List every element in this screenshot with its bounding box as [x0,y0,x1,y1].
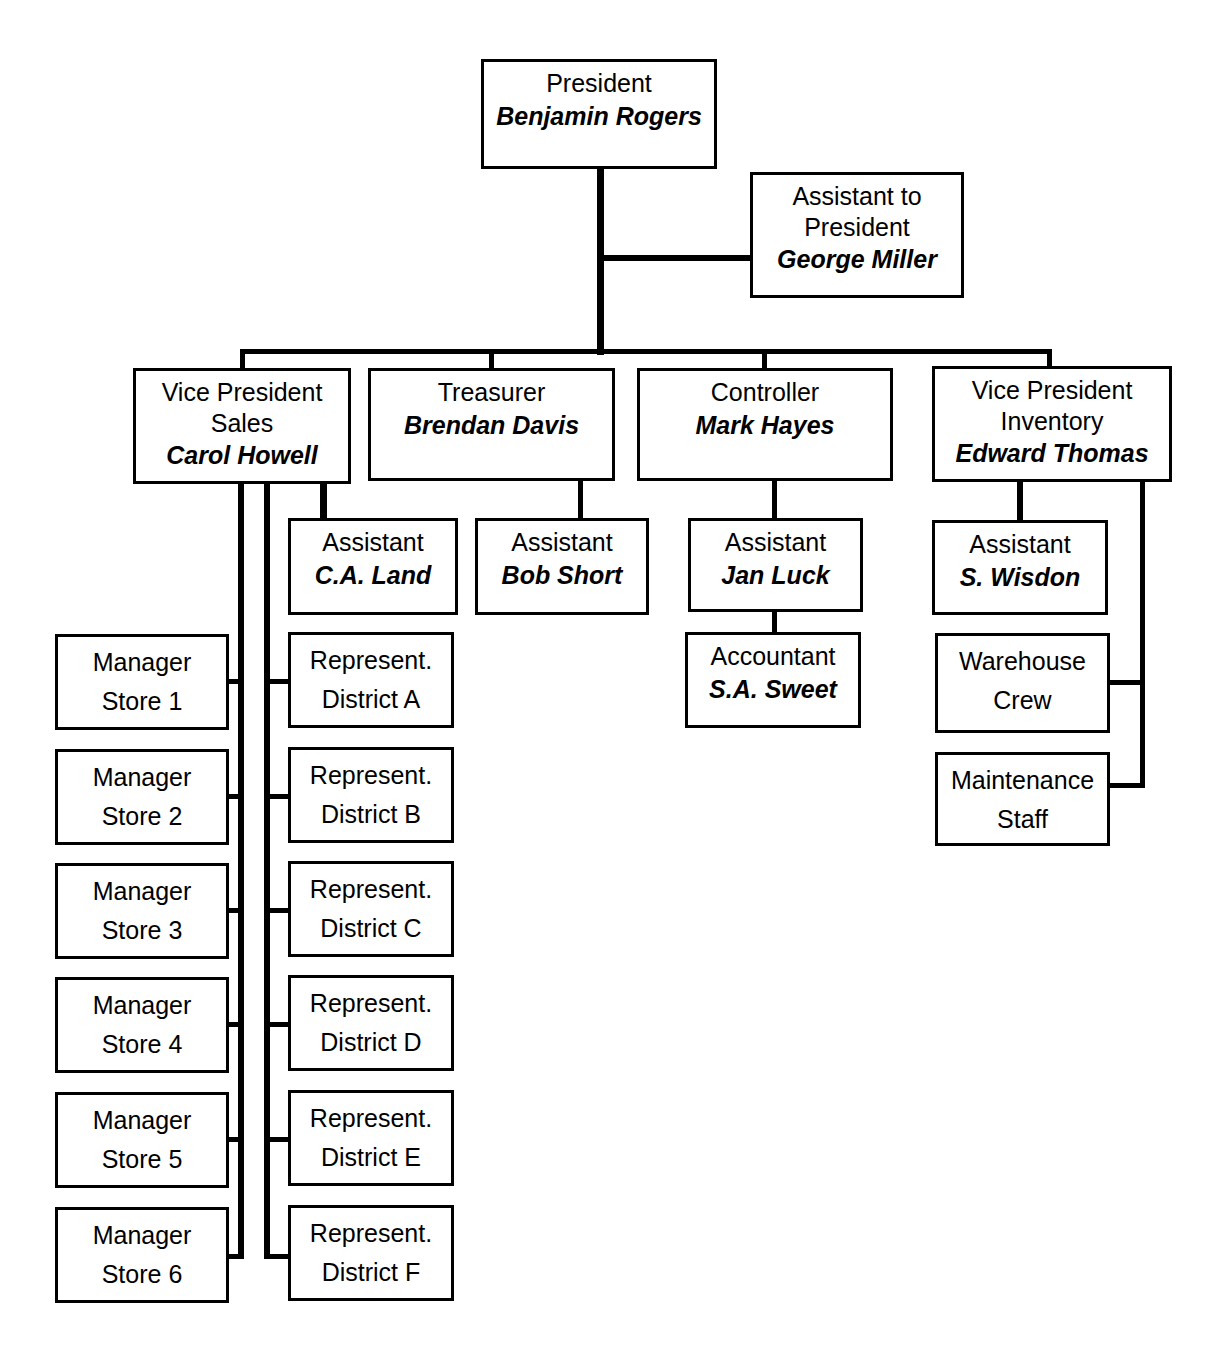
connector-drop-controller [762,349,767,370]
connector-managers-spine [238,483,244,1259]
node-represent-district-e[interactable]: Represent. District E [288,1090,454,1186]
connector-stub-district-d [264,1022,290,1027]
node-assistant-sales-person: C.A. Land [315,560,432,591]
node-manager-store-1[interactable]: Manager Store 1 [55,634,229,730]
connector-stub-district-a [264,679,290,684]
node-represent-district-a[interactable]: Represent. District A [288,632,454,728]
node-represent-district-a-title: Represent. District A [310,641,432,719]
connector-stub-warehouse [1108,680,1145,685]
node-manager-store-4-title: Manager Store 4 [93,986,192,1064]
node-vp-inventory[interactable]: Vice President Inventory Edward Thomas [932,366,1172,482]
connector-drop-vp-sales [240,349,245,370]
connector-stub-district-e [264,1137,290,1142]
node-manager-store-6-title: Manager Store 6 [93,1216,192,1294]
node-assistant-inventory-person: S. Wisdon [960,562,1081,593]
node-manager-store-6[interactable]: Manager Store 6 [55,1207,229,1303]
node-maintenance-staff[interactable]: Maintenance Staff [935,752,1110,846]
node-assistant-treasurer-person: Bob Short [502,560,623,591]
node-assistant-controller-title: Assistant [725,527,826,558]
connector-stub-maintenance [1108,783,1145,788]
node-accountant[interactable]: Accountant S.A. Sweet [685,632,861,728]
node-manager-store-5-title: Manager Store 5 [93,1101,192,1179]
node-represent-district-c-title: Represent. District C [310,870,432,948]
node-vp-sales-title: Vice President Sales [162,377,323,438]
node-assistant-sales[interactable]: Assistant C.A. Land [288,518,458,615]
node-assistant-controller-person: Jan Luck [721,560,829,591]
node-manager-store-2[interactable]: Manager Store 2 [55,749,229,845]
node-assistant-sales-title: Assistant [322,527,423,558]
node-manager-store-4[interactable]: Manager Store 4 [55,977,229,1073]
node-warehouse-crew[interactable]: Warehouse Crew [935,633,1110,733]
node-controller-person: Mark Hayes [696,410,835,441]
connector-stub-district-f [264,1254,290,1259]
node-vp-inventory-person: Edward Thomas [955,438,1148,469]
connector-president-trunk [597,168,604,355]
node-vp-inventory-title: Vice President Inventory [972,375,1133,436]
node-represent-district-c[interactable]: Represent. District C [288,861,454,957]
connector-president-to-assistant [597,255,753,261]
node-president-person: Benjamin Rogers [496,101,702,132]
node-assistant-treasurer-title: Assistant [511,527,612,558]
node-assistant-inventory-title: Assistant [969,529,1070,560]
node-represent-district-b-title: Represent. District B [310,756,432,834]
connector-drop-treasurer [489,349,494,370]
node-assistant-treasurer[interactable]: Assistant Bob Short [475,518,649,615]
node-controller-title: Controller [711,377,819,408]
node-represent-district-d[interactable]: Represent. District D [288,975,454,1071]
node-vp-sales[interactable]: Vice President Sales Carol Howell [133,368,351,484]
node-manager-store-1-title: Manager Store 1 [93,643,192,721]
connector-inventory-spine [1140,481,1145,788]
connector-level2-bus [240,349,1052,354]
node-represent-district-d-title: Represent. District D [310,984,432,1062]
node-manager-store-3[interactable]: Manager Store 3 [55,863,229,959]
node-president[interactable]: President Benjamin Rogers [481,59,717,169]
node-treasurer-title: Treasurer [438,377,545,408]
node-treasurer[interactable]: Treasurer Brendan Davis [368,368,615,481]
node-warehouse-crew-title: Warehouse Crew [959,642,1086,720]
node-manager-store-5[interactable]: Manager Store 5 [55,1092,229,1188]
connector-stub-district-c [264,908,290,913]
connector-treasurer-to-assistant [578,480,583,519]
node-assistant-to-president[interactable]: Assistant to President George Miller [750,172,964,298]
connector-stub-district-b [264,794,290,799]
node-treasurer-person: Brendan Davis [404,410,579,441]
node-president-title: President [546,68,652,99]
node-accountant-title: Accountant [710,641,835,672]
node-represent-district-e-title: Represent. District E [310,1099,432,1177]
connector-vpsales-to-assistant [320,483,327,519]
node-vp-sales-person: Carol Howell [166,440,317,471]
node-controller[interactable]: Controller Mark Hayes [637,368,893,481]
connector-representatives-spine [264,483,270,1259]
node-represent-district-f-title: Represent. District F [310,1214,432,1292]
node-represent-district-f[interactable]: Represent. District F [288,1205,454,1301]
connector-vpinventory-to-assistant [1017,481,1023,521]
node-assistant-inventory[interactable]: Assistant S. Wisdon [932,520,1108,615]
node-manager-store-3-title: Manager Store 3 [93,872,192,950]
node-maintenance-staff-title: Maintenance Staff [951,761,1094,839]
node-manager-store-2-title: Manager Store 2 [93,758,192,836]
node-assistant-to-president-title: Assistant to President [792,181,921,242]
node-accountant-person: S.A. Sweet [709,674,837,705]
node-represent-district-b[interactable]: Represent. District B [288,747,454,843]
node-assistant-to-president-person: George Miller [777,244,937,275]
org-chart: President Benjamin Rogers Assistant to P… [0,0,1227,1366]
node-assistant-controller[interactable]: Assistant Jan Luck [688,518,863,612]
connector-controller-to-assistant [772,480,777,519]
connector-assistant-to-accountant [772,610,777,634]
